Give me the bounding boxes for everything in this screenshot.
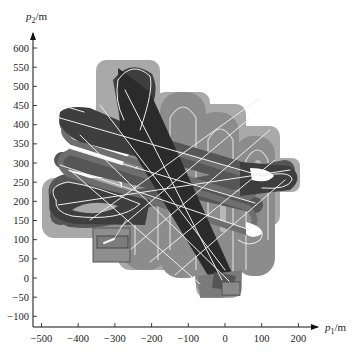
x-tick-label: 200 [291,333,307,344]
y-axis-label: p2/m [25,10,48,25]
end-region-box [222,282,240,295]
x-tick-label: 100 [254,333,270,344]
y-tick-label: 250 [13,177,29,188]
y-tick-label: 350 [13,138,29,149]
y-tick-label: 0 [24,273,29,284]
x-axis: −500−400−300−200−1000100200 p1/m [31,321,347,344]
trajectory-plot: −500−400−300−200−1000100200 p1/m −100−50… [0,0,355,352]
y-tick-label: 300 [13,158,29,169]
y-tick-label: 200 [13,196,29,207]
y-tick-label: 400 [13,119,29,130]
x-tick-label: −200 [141,333,163,344]
y-tick-label: 100 [13,234,29,245]
y-tick-label: 600 [13,43,29,54]
y-tick-label: 50 [19,253,30,264]
x-tick-label: −400 [67,333,89,344]
x-tick-label: −500 [31,333,53,344]
y-tick-label: 150 [13,215,29,226]
x-tick-label: 0 [222,333,227,344]
y-tick-label: 450 [13,100,29,111]
y-axis: −100−50050100150200250300350400450500550… [7,10,47,327]
y-tick-label: −50 [13,292,29,303]
x-tick-label: −100 [177,333,199,344]
x-tick-label: −300 [104,333,126,344]
x-axis-ticks: −500−400−300−200−1000100200 [31,323,307,344]
y-tick-label: 550 [13,62,29,73]
y-tick-label: −100 [7,311,29,322]
x-axis-label: p1/m [324,321,347,336]
y-tick-label: 500 [13,81,29,92]
